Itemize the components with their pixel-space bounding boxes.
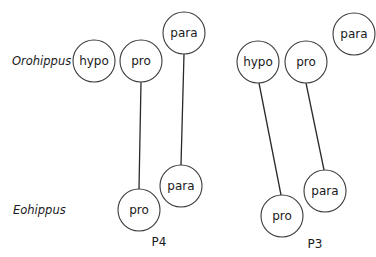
svg-text:para: para (167, 179, 194, 193)
group-label-p4: P4 (152, 235, 167, 249)
svg-text:pro: pro (296, 55, 316, 69)
node-p4-eo-para: para (160, 165, 202, 207)
cusp-homology-diagram: Orohippus Eohippus hypo pro para pro par… (0, 0, 376, 257)
link-p3-pro-para (306, 83, 324, 170)
node-p3-eo-para: para (304, 170, 346, 212)
row-label-orohippus: Orohippus (12, 54, 71, 68)
svg-text:pro: pro (129, 203, 149, 217)
svg-text:para: para (170, 26, 197, 40)
group-label-p3: P3 (308, 237, 323, 251)
svg-text:pro: pro (272, 209, 292, 223)
svg-text:pro: pro (131, 54, 151, 68)
node-p3-oro-hypo: hypo (237, 41, 279, 83)
svg-text:para: para (311, 184, 338, 198)
node-p3-oro-para: para (333, 13, 375, 55)
node-p4-oro-para: para (163, 12, 205, 54)
svg-text:para: para (340, 27, 367, 41)
svg-text:hypo: hypo (243, 55, 273, 69)
link-p4-para (181, 54, 184, 165)
link-p4-pro (139, 82, 141, 189)
node-p3-eo-pro: pro (261, 195, 303, 237)
link-p3-hypo-pro (259, 83, 281, 195)
node-p4-oro-pro: pro (120, 40, 162, 82)
node-p4-eo-pro: pro (118, 189, 160, 231)
node-p4-oro-hypo: hypo (73, 40, 115, 82)
svg-text:hypo: hypo (79, 54, 109, 68)
node-p3-oro-pro: pro (285, 41, 327, 83)
row-label-eohippus: Eohippus (13, 203, 66, 217)
